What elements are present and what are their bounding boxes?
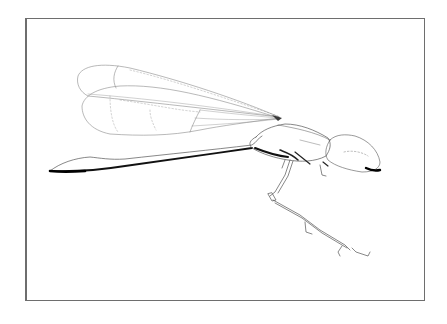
damselfly-illustration xyxy=(0,0,447,324)
thorax xyxy=(250,124,330,164)
eye-mark xyxy=(366,168,380,170)
hindwing xyxy=(82,86,279,135)
abdomen xyxy=(50,136,262,172)
head xyxy=(323,135,380,172)
legs xyxy=(268,160,370,256)
